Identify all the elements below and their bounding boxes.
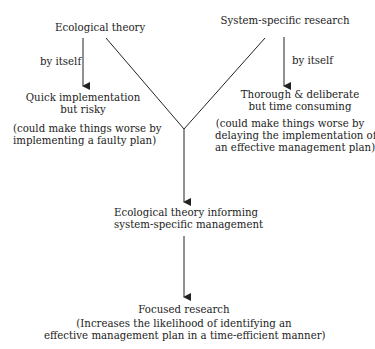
node-focused-title: Focused research — [124, 304, 244, 317]
node-focused-note-1: (Increases the likelihood of identifying… — [64, 318, 304, 331]
node-quick-note-2: implementing a faulty plan) — [13, 135, 153, 148]
right-diagonal — [184, 38, 265, 129]
node-quick-title-1: Quick implementation — [23, 92, 143, 105]
node-thorough-note-2: delaying the implementation of — [215, 130, 365, 143]
diagram-connectors — [0, 0, 375, 349]
node-quick-title-2: but risky — [23, 104, 143, 117]
node-informing-1: Ecological theory informing — [114, 207, 254, 220]
node-thorough-title-1: Thorough & deliberate — [240, 89, 360, 102]
node-quick-note-1: (could make things worse by — [13, 123, 153, 136]
node-thorough-note-3: an effective management plan) — [215, 142, 365, 155]
node-thorough-title-2: but time consuming — [240, 101, 360, 114]
node-informing-2: system-specific management — [114, 219, 254, 232]
edge-label-right: by itself — [290, 55, 335, 68]
node-thorough-note-1: (could make things worse by — [215, 118, 365, 131]
node-ecological-theory: Ecological theory — [55, 22, 135, 35]
node-system-specific-research: System-specific research — [220, 15, 350, 28]
edge-label-left: by itself — [40, 56, 80, 69]
node-focused-note-2: effective management plan in a time-effi… — [44, 330, 324, 343]
